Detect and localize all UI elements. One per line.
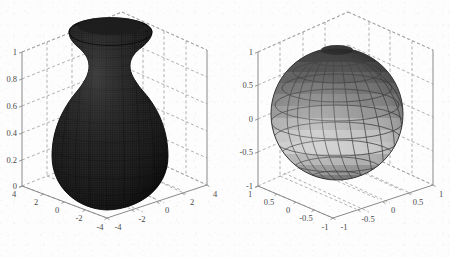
sphere-xtick-label: -1 (340, 222, 347, 232)
sphere-ztick-label: 0.5 (242, 80, 253, 90)
vase-xtick-label: 4 (213, 189, 218, 199)
sphere-ytick-label: 0 (286, 205, 290, 215)
vase-ytick-label: 0 (55, 205, 59, 215)
sphere-xtick-label: 0.5 (413, 197, 424, 207)
sphere-xtick-label: 0 (391, 205, 395, 215)
vase-ztick-label: 0.6 (6, 101, 17, 111)
sphere-ztick-label: 0 (249, 114, 253, 124)
vase-xtick-label: -4 (114, 222, 122, 232)
vase-ytick-label: 2 (34, 197, 38, 207)
sphere-ztick-label: 1 (249, 47, 253, 57)
figure-canvas: 1 0.8 0.6 0.4 0.2 0 4 2 0 -2 -4 -4 -2 0 … (0, 0, 450, 257)
sphere-ztick-label: -0.5 (240, 147, 253, 157)
vase-ztick-label: 0.2 (6, 155, 17, 165)
sphere-xtick-label: -0.5 (361, 214, 374, 224)
sphere-ytick-label: 0.5 (264, 197, 275, 207)
vase-ztick-label: 1 (13, 47, 17, 57)
vase-surface-plot: 1 0.8 0.6 0.4 0.2 0 4 2 0 -2 -4 -4 -2 0 … (0, 0, 225, 257)
sphere-ytick-label: -1 (321, 222, 328, 232)
sphere-ytick-label: 1 (248, 189, 252, 199)
vase-ytick-label: -2 (75, 213, 82, 223)
sphere-surface-plot: 1 0.5 0 -0.5 -1 1 0.5 0 -0.5 -1 -1 -0.5 … (225, 0, 450, 257)
vase-xtick-label: 0 (165, 205, 169, 215)
vase-ztick-label: 0.4 (6, 128, 17, 138)
sphere-xtick-label: 1 (439, 189, 443, 199)
vase-ytick-label: -4 (96, 222, 104, 232)
vase-surface (52, 17, 168, 210)
vase-xtick-label: -2 (138, 214, 145, 224)
vase-xtick-label: 2 (190, 197, 194, 207)
sphere-ytick-label: -0.5 (299, 213, 312, 223)
vase-ztick-label: 0.8 (6, 74, 17, 84)
